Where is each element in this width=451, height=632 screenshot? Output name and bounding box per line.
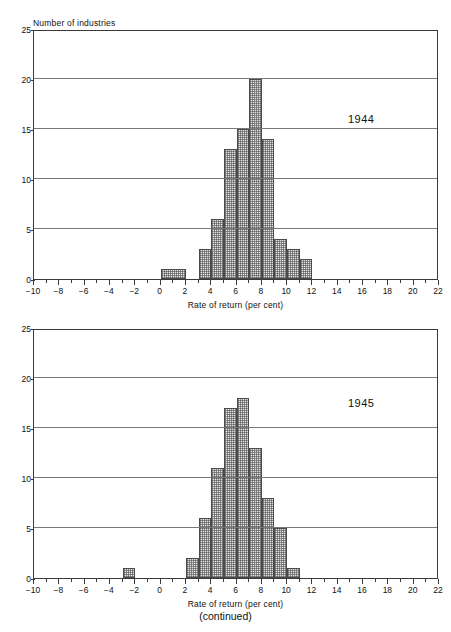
x-tick-label-20: 20 xyxy=(408,286,417,296)
x-tick-label--8: −8 xyxy=(53,585,63,595)
x-tick--1 xyxy=(147,280,148,283)
y-tick-label-5: 5 xyxy=(11,524,31,534)
x-tick-label-6: 6 xyxy=(233,286,238,296)
x-tick-label--2: −2 xyxy=(129,286,139,296)
y-tick-label-15: 15 xyxy=(11,424,31,434)
y-tick-label-20: 20 xyxy=(11,374,31,384)
histogram-1945: 0510152025 −10−8−6−4−2024681012141618202… xyxy=(0,325,451,607)
x-tick-label-10: 10 xyxy=(281,585,290,595)
bar xyxy=(287,249,300,279)
x-tick-label-14: 14 xyxy=(332,585,341,595)
x-tick-15 xyxy=(349,579,350,582)
x-tick--1 xyxy=(147,579,148,582)
x-tick-label-2: 2 xyxy=(183,585,188,595)
x-tick-label--4: −4 xyxy=(104,585,114,595)
x-tick-13 xyxy=(324,280,325,283)
gridline-y-15 xyxy=(34,427,437,428)
x-axis-label-1944: Rate of return (per cent) xyxy=(33,300,438,310)
x-tick-6 xyxy=(236,280,237,285)
y-tick-label-10: 10 xyxy=(11,474,31,484)
x-tick--10 xyxy=(33,280,34,285)
x-tick--4 xyxy=(109,579,110,584)
x-tick-15 xyxy=(349,280,350,283)
y-axis-label-1944: Number of industries xyxy=(33,18,115,28)
x-tick-label-12: 12 xyxy=(307,286,316,296)
x-tick-18 xyxy=(387,579,388,584)
x-tick-label-16: 16 xyxy=(357,585,366,595)
x-tick-label-18: 18 xyxy=(383,585,392,595)
x-tick-18 xyxy=(387,280,388,285)
bar xyxy=(262,139,275,279)
x-tick--7 xyxy=(71,280,72,283)
x-tick-8 xyxy=(261,579,262,584)
gridline-y-20 xyxy=(34,377,437,378)
x-tick-label-18: 18 xyxy=(383,286,392,296)
bar xyxy=(262,498,275,578)
x-tick-0 xyxy=(160,579,161,584)
x-tick-20 xyxy=(413,579,414,584)
x-tick-11 xyxy=(299,579,300,582)
x-tick-17 xyxy=(375,280,376,283)
x-tick-2 xyxy=(185,579,186,584)
x-tick-label--10: −10 xyxy=(26,585,40,595)
x-tick--3 xyxy=(122,280,123,283)
x-tick-0 xyxy=(160,280,161,285)
x-tick-label-8: 8 xyxy=(258,585,263,595)
x-tick--6 xyxy=(84,280,85,285)
x-tick--8 xyxy=(58,579,59,584)
x-tick-17 xyxy=(375,579,376,582)
y-tick-label-25: 25 xyxy=(11,25,31,35)
x-tick-label--8: −8 xyxy=(53,286,63,296)
gridline-y-15 xyxy=(34,128,437,129)
x-tick-7 xyxy=(248,280,249,283)
x-tick-14 xyxy=(337,280,338,285)
bar xyxy=(199,249,212,279)
x-tick-label-22: 22 xyxy=(433,286,442,296)
x-tick-label-4: 4 xyxy=(208,286,213,296)
x-tick-16 xyxy=(362,579,363,584)
y-tick-label-0: 0 xyxy=(11,275,31,285)
series-label-1944: 1944 xyxy=(348,113,374,125)
x-tick--4 xyxy=(109,280,110,285)
plot-area-1945 xyxy=(33,329,438,579)
x-tick-5 xyxy=(223,280,224,283)
series-label-1945: 1945 xyxy=(348,397,374,409)
x-tick-9 xyxy=(273,579,274,582)
bar xyxy=(224,408,237,578)
x-tick-label--2: −2 xyxy=(129,585,139,595)
x-tick-4 xyxy=(210,280,211,285)
bar xyxy=(211,468,224,578)
bar xyxy=(249,448,262,578)
x-tick-16 xyxy=(362,280,363,285)
bar xyxy=(123,568,136,578)
x-tick--5 xyxy=(96,280,97,283)
bar xyxy=(274,239,287,279)
x-tick-20 xyxy=(413,280,414,285)
y-tick-label-15: 15 xyxy=(11,125,31,135)
x-tick-12 xyxy=(311,579,312,584)
bar xyxy=(186,558,199,578)
x-tick-label-16: 16 xyxy=(357,286,366,296)
gridline-y-10 xyxy=(34,477,437,478)
y-tick-label-20: 20 xyxy=(11,75,31,85)
x-tick-label-8: 8 xyxy=(258,286,263,296)
x-tick-19 xyxy=(400,579,401,582)
bars-layer-1945 xyxy=(34,330,437,578)
x-tick--2 xyxy=(134,280,135,285)
x-tick-label-14: 14 xyxy=(332,286,341,296)
x-tick-3 xyxy=(198,579,199,582)
faint-page-header xyxy=(0,0,451,14)
y-tick-label-10: 10 xyxy=(11,175,31,185)
x-tick--8 xyxy=(58,280,59,285)
bar xyxy=(249,79,262,279)
x-tick--5 xyxy=(96,579,97,582)
x-tick-label-10: 10 xyxy=(281,286,290,296)
x-axis-1944: −10−8−6−4−20246810121416182022 xyxy=(33,280,438,300)
gridline-y-5 xyxy=(34,527,437,528)
x-tick-2 xyxy=(185,280,186,285)
x-tick-label-2: 2 xyxy=(183,286,188,296)
gridline-y-5 xyxy=(34,228,437,229)
figure-caption: (continued) xyxy=(0,610,451,622)
gridline-y-10 xyxy=(34,178,437,179)
x-tick-19 xyxy=(400,280,401,283)
